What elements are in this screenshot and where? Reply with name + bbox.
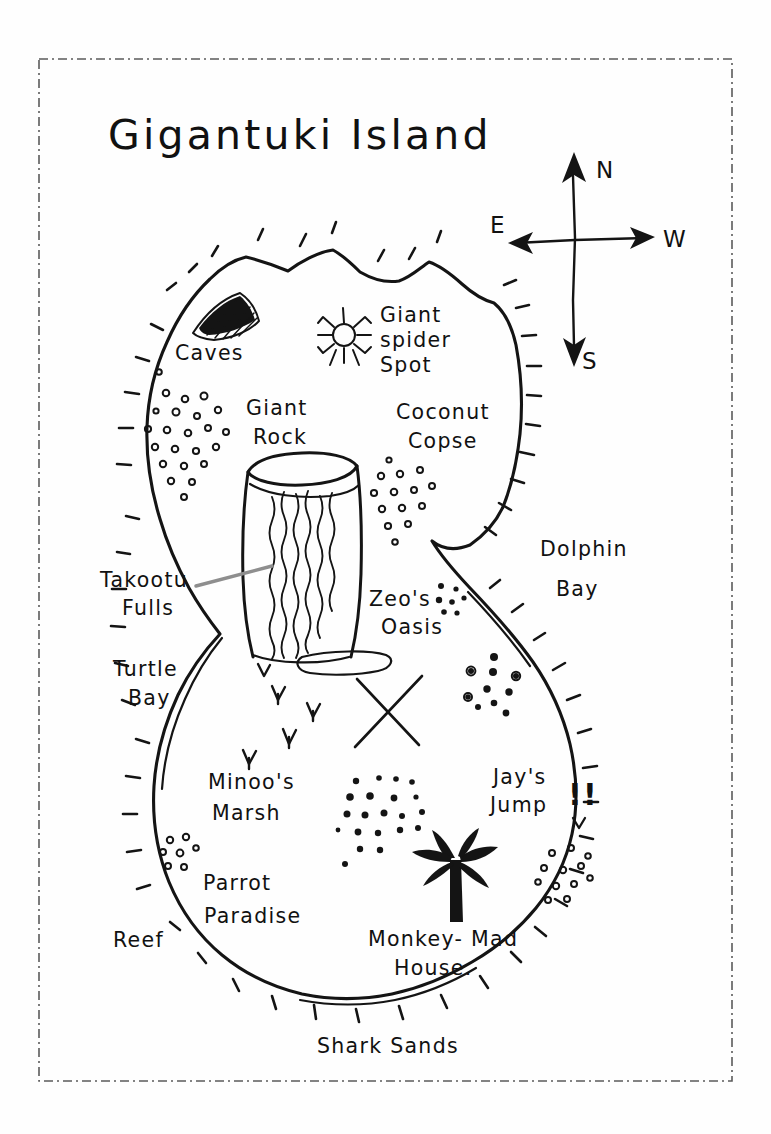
jays-jump-feature: Jay's Jump !! [488,765,598,828]
label-shark-sands: Shark Sands [317,1034,459,1058]
scatter-dots-center-bottom [336,775,425,867]
compass-label-south: S [582,348,597,374]
waterfall-streaks [270,491,335,659]
label-turtle-bay-line1: Turtle [112,657,178,681]
palm-frond-right-down [458,862,489,888]
marsh-grass-tufts [243,664,320,769]
label-turtle-bay-line2: Bay [128,686,171,710]
compass-label-west: W [663,226,686,252]
label-giant-spider-spot-line3: Spot [380,353,432,377]
giant-spider-spot-feature: Giant spider Spot [318,303,451,377]
coconut-copse-dots [371,457,435,544]
label-parrot-paradise-line1: Parrot [203,871,271,895]
treasure-x-mark [355,676,422,747]
giant-rock-feature: Giant Rock [243,396,362,662]
label-zeos-oasis-line2: Oasis [381,615,443,639]
label-dolphin-bay-line1: Dolphin [540,537,628,561]
label-takootu-falls-line2: Fulls [122,596,174,620]
takootu-falls-pointer-line [196,566,272,586]
compass-vertical-shaft [573,176,575,346]
label-giant-rock-line2: Rock [253,425,307,449]
label-minoos-marsh-line1: Minoo's [208,770,295,794]
label-takootu-falls-line1: Takootu [99,568,188,592]
compass-rose: N S E W [490,152,686,374]
parrot-paradise-feature: Parrot Paradise [203,871,301,928]
scatter-dots-mid-right [464,653,520,716]
label-giant-spider-spot-line1: Giant [380,303,442,327]
giant-rock-left-edge [243,472,253,657]
spider-body [333,324,355,346]
palm-frond-left-down [423,862,454,886]
label-coconut-copse-line1: Coconut [396,400,490,424]
compass-label-east: E [490,212,505,238]
label-coconut-copse-line2: Copse [408,429,478,453]
label-monkey-mad-house-line1: Monkey- Mad [368,927,518,951]
palm-tree-trunk [450,860,463,922]
label-parrot-paradise-line2: Paradise [204,904,301,928]
monkey-mad-house-feature: Monkey- Mad House. [368,828,518,980]
label-zeos-oasis-line1: Zeo's [369,587,431,611]
zeos-oasis-feature: Zeo's Oasis [369,583,467,639]
label-jays-jump-line2: Jump [488,793,547,817]
scatter-dots-bottom-right [535,845,593,903]
compass-horizontal-shaft [516,238,645,243]
label-caves: Caves [175,341,244,365]
label-minoos-marsh-line2: Marsh [212,801,281,825]
label-monkey-mad-house-line2: House. [394,956,473,980]
label-jays-jump-line1: Jay's [491,765,547,789]
giant-rock-right-edge [351,466,361,657]
spider-legs [318,308,371,365]
page-title: Gigantuki Island [108,111,492,159]
zeos-oasis-dots [436,583,467,616]
compass-label-north: N [596,157,614,183]
label-jays-jump-exclamation: !! [568,777,598,812]
scatter-dots-upper-left [145,369,229,500]
hand-drawn-island-map: Gigantuki Island N S E W [0,0,771,1134]
label-giant-rock-line1: Giant [246,396,308,420]
label-giant-spider-spot-line2: spider [380,328,451,352]
turtle-bay-feature: Turtle Bay [112,657,178,710]
minoos-marsh-feature: Minoo's Marsh [208,770,295,825]
dolphin-bay-feature: Dolphin Bay [540,537,628,601]
label-reef: Reef [113,928,164,952]
coconut-copse-feature: Coconut Copse [371,400,490,545]
coastline-inner-neck [468,592,530,666]
scatter-dots-bottom-left [160,834,199,870]
giant-rock-top-cap [248,453,357,485]
map-canvas: Gigantuki Island N S E W [0,0,771,1134]
label-dolphin-bay-line2: Bay [556,577,599,601]
